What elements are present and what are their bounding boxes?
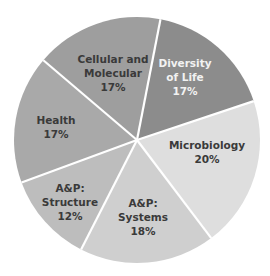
slice-category-text: Health: [36, 113, 75, 127]
slice-category-text: Structure: [42, 195, 98, 209]
slice-percent-text: 17%: [36, 127, 75, 141]
slice-percent-text: 17%: [158, 84, 211, 98]
slice-category-text: Cellular and: [77, 52, 148, 66]
slice-percent-text: 20%: [169, 152, 245, 166]
slice-category-text: Microbiology: [169, 138, 245, 152]
slice-percent-text: 17%: [77, 80, 148, 94]
slice-label-a-p-systems: A&P:Systems18%: [118, 196, 168, 238]
slice-category-text: Diversity: [158, 56, 211, 70]
slice-category-text: Molecular: [77, 66, 148, 80]
slice-label-cellular-and-molecular: Cellular andMolecular17%: [77, 52, 148, 94]
slice-category-text: A&P:: [42, 181, 98, 195]
slice-percent-text: 12%: [42, 209, 98, 223]
slice-category-text: Systems: [118, 210, 168, 224]
slice-label-a-p-structure: A&P:Structure12%: [42, 181, 98, 223]
slice-category-text: A&P:: [118, 196, 168, 210]
slice-label-diversity-of-life: Diversityof Life17%: [158, 56, 211, 98]
slice-percent-text: 18%: [118, 224, 168, 238]
slice-label-microbiology: Microbiology20%: [169, 138, 245, 166]
slice-category-text: of Life: [158, 70, 211, 84]
slice-label-health: Health17%: [36, 113, 75, 141]
